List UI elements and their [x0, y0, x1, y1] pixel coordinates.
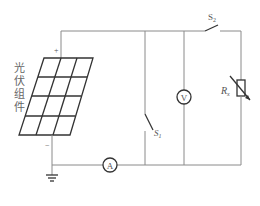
minus-sign: −	[45, 141, 50, 150]
switch1-icon	[145, 114, 153, 130]
ammeter-icon: A	[103, 158, 117, 172]
circuit-diagram: 光 伏 组 件 + − A S1 V S2 Rx	[0, 0, 260, 206]
plus-sign: +	[54, 46, 59, 55]
switch2-label: S2	[208, 12, 216, 23]
svg-text:A: A	[107, 161, 114, 171]
panel-label-char-2: 伏	[14, 74, 25, 88]
ground-icon	[46, 175, 58, 181]
variable-resistor-icon	[230, 76, 250, 100]
switch2-icon	[205, 25, 218, 31]
panel-label-char-1: 光	[14, 61, 25, 75]
solar-panel-icon	[19, 58, 93, 135]
svg-text:V: V	[181, 93, 188, 103]
resistor-label: Rx	[220, 85, 230, 97]
top-right-wire	[220, 31, 241, 80]
panel-label-char-3: 组	[14, 87, 25, 101]
switch1-label: S1	[154, 128, 162, 139]
voltmeter-icon: V	[177, 90, 191, 104]
panel-label-char-4: 件	[14, 101, 25, 114]
